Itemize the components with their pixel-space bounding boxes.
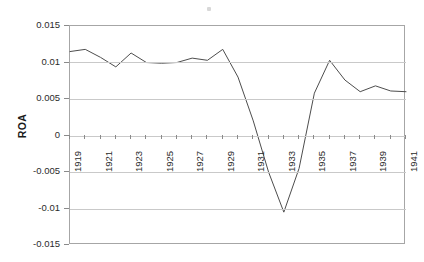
x-axis-tick-mark [69, 135, 70, 139]
x-axis-tick-mark [191, 135, 192, 139]
x-axis-tick-mark [145, 135, 146, 139]
x-axis-tick-mark [374, 135, 375, 139]
x-axis-tick-label: 1937 [348, 132, 358, 172]
x-axis-tick-label: 1931 [256, 132, 266, 172]
x-axis-tick-mark [268, 135, 269, 139]
x-axis-tick-mark [390, 135, 391, 139]
x-axis-tick-mark [115, 135, 116, 139]
x-axis-tick-label: 1933 [287, 132, 297, 172]
x-axis-tick-mark [329, 135, 330, 139]
x-axis-tick-mark [359, 135, 360, 139]
x-axis-tick-mark [176, 135, 177, 139]
x-axis-tick-mark [283, 135, 284, 139]
roa-line-chart: ROA 0.0150.010.0050-0.005-0.01-0.015 191… [0, 0, 424, 262]
x-axis-tick-label: 1939 [378, 132, 388, 172]
x-axis-tick-mark [222, 135, 223, 139]
x-axis-tick-label: 1921 [104, 132, 114, 172]
x-axis-tick-mark [237, 135, 238, 139]
x-axis-tick-mark [298, 135, 299, 139]
x-axis-tick-label: 1927 [195, 132, 205, 172]
x-axis-tick-mark [161, 135, 162, 139]
x-axis-tick-label: 1941 [409, 132, 419, 172]
x-axis-tick-mark [206, 135, 207, 139]
x-axis-tick-mark [84, 135, 85, 139]
x-axis-tick-mark [344, 135, 345, 139]
x-axis-tick-label: 1935 [317, 132, 327, 172]
x-axis-tick-layer: 1919192119231925192719291931193319351937… [0, 0, 424, 262]
x-axis-tick-mark [405, 135, 406, 139]
x-axis-tick-mark [130, 135, 131, 139]
x-axis-tick-label: 1929 [226, 132, 236, 172]
x-axis-tick-label: 1925 [165, 132, 175, 172]
x-axis-tick-label: 1923 [134, 132, 144, 172]
x-axis-tick-mark [100, 135, 101, 139]
x-axis-tick-mark [252, 135, 253, 139]
x-axis-tick-mark [313, 135, 314, 139]
x-axis-tick-label: 1919 [73, 132, 83, 172]
